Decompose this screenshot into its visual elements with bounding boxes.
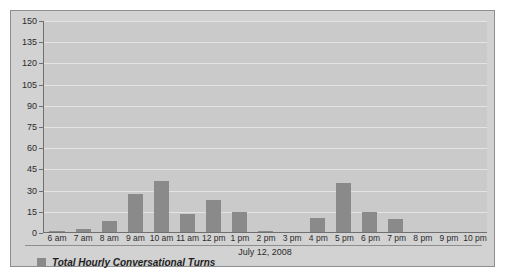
chart-legend: Total Hourly Conversational Turns	[37, 257, 215, 268]
bar-slot	[305, 21, 331, 232]
bar-slot	[253, 21, 279, 232]
y-tick-label: 15	[27, 207, 37, 216]
y-tick-label: 45	[27, 165, 37, 174]
bar	[180, 214, 195, 232]
x-tick-label: 10 pm	[462, 234, 488, 243]
x-tick-label: 7 pm	[384, 234, 410, 243]
chart-frame: 0153045607590105120135150 6 am7 am8 am9 …	[10, 10, 495, 267]
bar	[154, 181, 169, 232]
bar-slot	[122, 21, 148, 232]
y-tick-label: 90	[27, 101, 37, 110]
bar	[232, 212, 247, 232]
bar-series	[44, 21, 487, 232]
bar-slot	[357, 21, 383, 232]
x-axis-title: July 12, 2008	[43, 247, 487, 257]
x-tick-label: 7 am	[70, 234, 96, 243]
bar	[362, 212, 377, 232]
bar	[128, 194, 143, 232]
bar-slot	[461, 21, 487, 232]
y-tick-label: 120	[22, 59, 37, 68]
x-tick-label: 3 pm	[279, 234, 305, 243]
legend-swatch-icon	[37, 258, 46, 267]
x-axis-labels: 6 am7 am8 am9 am10 am11 am12 pm1 pm2 pm3…	[44, 234, 488, 243]
x-tick-label: 8 pm	[410, 234, 436, 243]
legend-label: Total Hourly Conversational Turns	[52, 257, 215, 268]
bar	[76, 229, 91, 232]
y-tick-mark	[39, 233, 43, 234]
bar-slot	[174, 21, 200, 232]
bar-slot	[148, 21, 174, 232]
x-tick-label: 9 pm	[436, 234, 462, 243]
x-tick-label: 1 pm	[227, 234, 253, 243]
bar-slot	[70, 21, 96, 232]
bar	[258, 231, 273, 232]
bar-slot	[44, 21, 70, 232]
plot-area: 0153045607590105120135150	[43, 21, 487, 233]
x-tick-label: 11 am	[175, 234, 201, 243]
y-tick-label: 135	[22, 38, 37, 47]
x-tick-label: 10 am	[149, 234, 175, 243]
bar-slot	[200, 21, 226, 232]
bar-slot	[279, 21, 305, 232]
y-tick-label: 105	[22, 80, 37, 89]
bar	[310, 218, 325, 232]
x-tick-label: 4 pm	[305, 234, 331, 243]
bar	[49, 231, 64, 232]
bar	[102, 221, 117, 232]
x-tick-label: 6 am	[44, 234, 70, 243]
bar-slot	[226, 21, 252, 232]
x-tick-label: 9 am	[122, 234, 148, 243]
bar	[336, 183, 351, 232]
x-tick-label: 5 pm	[331, 234, 357, 243]
legend-divider	[25, 245, 482, 246]
y-tick-label: 30	[27, 186, 37, 195]
y-tick-label: 60	[27, 144, 37, 153]
x-tick-label: 6 pm	[358, 234, 384, 243]
bar-slot	[96, 21, 122, 232]
y-tick-label: 0	[32, 229, 37, 238]
bar-slot	[435, 21, 461, 232]
bar-slot	[331, 21, 357, 232]
x-tick-label: 12 pm	[201, 234, 227, 243]
bar	[388, 219, 403, 232]
y-tick-label: 150	[22, 17, 37, 26]
bar-slot	[383, 21, 409, 232]
bar	[206, 200, 221, 232]
bar-slot	[409, 21, 435, 232]
x-tick-label: 8 am	[96, 234, 122, 243]
y-tick-label: 75	[27, 123, 37, 132]
x-tick-label: 2 pm	[253, 234, 279, 243]
